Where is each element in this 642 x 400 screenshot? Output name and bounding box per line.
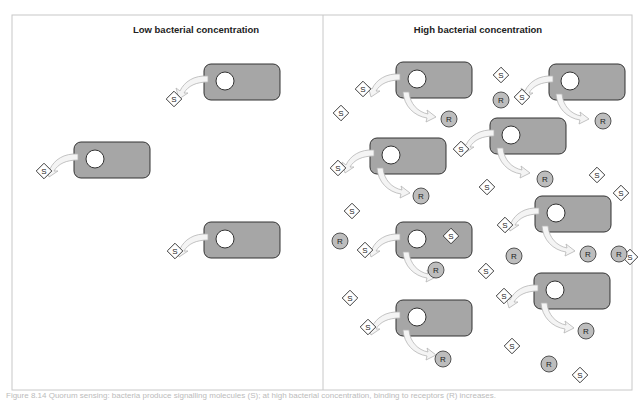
svg-text:S: S bbox=[502, 221, 507, 230]
svg-text:S: S bbox=[519, 93, 524, 102]
svg-text:S: S bbox=[618, 189, 623, 198]
svg-text:S: S bbox=[362, 246, 367, 255]
svg-text:S: S bbox=[509, 342, 514, 351]
svg-text:S: S bbox=[501, 292, 506, 301]
receptor-icon: R bbox=[611, 246, 627, 262]
svg-text:R: R bbox=[585, 250, 591, 259]
receptor-icon: R bbox=[428, 262, 444, 278]
receptor-icon: R bbox=[493, 92, 509, 108]
receptor-icon: R bbox=[332, 233, 348, 249]
receptor-icon: R bbox=[595, 113, 611, 129]
svg-text:S: S bbox=[627, 253, 632, 262]
svg-text:R: R bbox=[337, 237, 343, 246]
svg-text:S: S bbox=[458, 145, 463, 154]
svg-text:S: S bbox=[498, 71, 503, 80]
svg-text:S: S bbox=[172, 247, 177, 256]
receptor-icon: R bbox=[413, 188, 429, 204]
svg-text:R: R bbox=[433, 266, 439, 275]
figure-caption: Figure 8.14 Quorum sensing: bacteria pro… bbox=[6, 391, 496, 400]
receptor-icon: R bbox=[537, 171, 553, 187]
svg-text:R: R bbox=[446, 115, 452, 124]
svg-text:S: S bbox=[349, 207, 354, 216]
svg-text:R: R bbox=[616, 250, 622, 259]
svg-text:S: S bbox=[41, 167, 46, 176]
svg-text:S: S bbox=[338, 109, 343, 118]
receptor-icon: R bbox=[506, 248, 522, 264]
receptor-icon: R bbox=[578, 323, 594, 339]
panel-title-high: High bacterial concentration bbox=[414, 24, 542, 35]
svg-text:S: S bbox=[335, 164, 340, 173]
svg-text:S: S bbox=[360, 85, 365, 94]
receptor-icon: R bbox=[441, 111, 457, 127]
receptor-icon: R bbox=[435, 351, 451, 367]
panel-title-low: Low bacterial concentration bbox=[133, 24, 259, 35]
svg-text:R: R bbox=[583, 327, 589, 336]
svg-text:S: S bbox=[594, 171, 599, 180]
svg-text:S: S bbox=[347, 294, 352, 303]
svg-text:R: R bbox=[498, 96, 504, 105]
quorum-sensing-figure: Low bacterial concentration High bacteri… bbox=[0, 0, 642, 400]
svg-text:R: R bbox=[418, 192, 424, 201]
receptor-icon: R bbox=[541, 356, 557, 372]
svg-text:R: R bbox=[546, 360, 552, 369]
svg-text:R: R bbox=[511, 252, 517, 261]
svg-text:S: S bbox=[365, 323, 370, 332]
svg-text:R: R bbox=[600, 117, 606, 126]
svg-text:S: S bbox=[484, 183, 489, 192]
receptor-icon: R bbox=[580, 246, 596, 262]
svg-text:R: R bbox=[542, 175, 548, 184]
svg-text:R: R bbox=[440, 355, 446, 364]
svg-text:S: S bbox=[448, 232, 453, 241]
svg-text:S: S bbox=[171, 95, 176, 104]
svg-text:S: S bbox=[577, 371, 582, 380]
svg-text:S: S bbox=[483, 267, 488, 276]
